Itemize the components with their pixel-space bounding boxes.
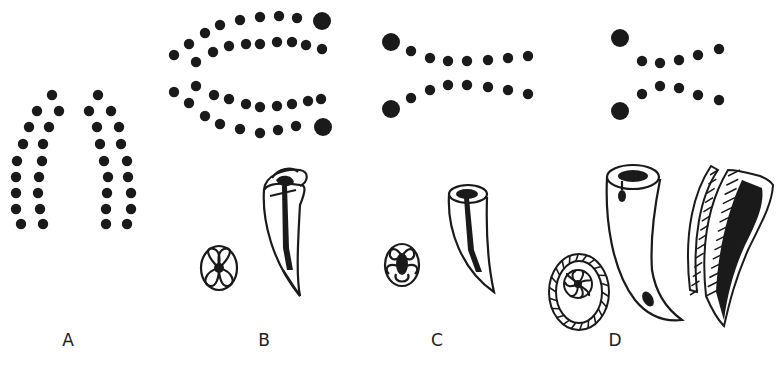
- dot-c: [483, 82, 493, 92]
- dot-c: [483, 55, 493, 65]
- dot-b: [255, 12, 265, 22]
- dot-c: [523, 89, 533, 99]
- dot-b: [215, 119, 225, 129]
- panel-d-longitudinal-section: [688, 166, 773, 326]
- dot-b: [272, 37, 282, 47]
- dot-a: [54, 106, 64, 116]
- dot-d: [674, 55, 684, 65]
- dot-b: [303, 96, 313, 106]
- dot-a: [11, 204, 21, 214]
- dot-b: [292, 13, 302, 23]
- dot-d: [637, 89, 647, 99]
- dot-a: [122, 156, 132, 166]
- large-dot-d: [611, 29, 629, 47]
- diagram-canvas: [0, 0, 783, 368]
- dot-a: [32, 106, 42, 116]
- dot-b: [208, 47, 218, 57]
- dot-d: [693, 50, 703, 60]
- dot-a: [102, 188, 112, 198]
- dot-a: [33, 188, 43, 198]
- dot-c: [503, 85, 513, 95]
- dot-c: [406, 93, 416, 103]
- dot-a: [34, 172, 44, 182]
- dot-b: [235, 15, 245, 25]
- dot-b: [184, 98, 194, 108]
- large-dot-b: [314, 118, 332, 136]
- panel-label-d: D: [605, 330, 625, 350]
- dot-a: [24, 122, 34, 132]
- dot-b: [255, 102, 265, 112]
- dot-b: [255, 39, 265, 49]
- large-dot-c: [382, 100, 400, 118]
- dot-a: [38, 219, 48, 229]
- dot-b: [287, 37, 297, 47]
- dot-a: [16, 219, 26, 229]
- dot-c: [462, 56, 472, 66]
- dot-b: [200, 28, 210, 38]
- dot-b: [317, 44, 327, 54]
- dot-c: [523, 51, 533, 61]
- dot-b: [184, 39, 194, 49]
- dot-b: [274, 11, 284, 21]
- dot-d: [655, 58, 665, 68]
- panel-label-b: B: [254, 330, 274, 350]
- dot-a: [11, 188, 21, 198]
- dot-a: [47, 90, 57, 100]
- dot-c: [462, 80, 472, 90]
- panel-b-longitudinal-section: [264, 169, 307, 296]
- dot-a: [35, 204, 45, 214]
- dot-b: [169, 87, 179, 97]
- dot-d: [714, 95, 724, 105]
- dot-a: [44, 122, 54, 132]
- dot-a: [126, 188, 136, 198]
- dot-a: [126, 204, 136, 214]
- dot-a: [106, 106, 116, 116]
- dot-b: [301, 40, 311, 50]
- dot-c: [425, 53, 435, 63]
- dot-b: [287, 99, 297, 109]
- panel-d-tooth-exterior: [607, 165, 682, 320]
- dot-c: [443, 80, 453, 90]
- dot-a: [12, 156, 22, 166]
- panel-c-longitudinal-section: [449, 185, 494, 292]
- dot-a: [92, 122, 102, 132]
- dot-b: [169, 50, 179, 60]
- dot-b: [215, 20, 225, 30]
- dot-a: [93, 90, 103, 100]
- panel-c-cross-section: [385, 244, 419, 286]
- dot-b: [224, 94, 234, 104]
- dot-a: [84, 106, 94, 116]
- dot-b: [316, 94, 326, 104]
- dot-b: [224, 41, 234, 51]
- dot-b: [235, 124, 245, 134]
- large-dot-c: [382, 33, 400, 51]
- dot-d: [655, 81, 665, 91]
- dot-b: [272, 101, 282, 111]
- dot-a: [37, 156, 47, 166]
- dot-d: [693, 90, 703, 100]
- dot-b: [209, 90, 219, 100]
- dot-a: [114, 122, 124, 132]
- dot-a: [122, 219, 132, 229]
- dot-a: [101, 219, 111, 229]
- dot-b: [255, 128, 265, 138]
- dot-c: [443, 56, 453, 66]
- panel-label-c: C: [427, 330, 447, 350]
- dot-c: [503, 53, 513, 63]
- dot-b: [273, 125, 283, 135]
- dot-d: [674, 83, 684, 93]
- dot-d: [637, 56, 647, 66]
- dot-a: [99, 156, 109, 166]
- dot-a: [38, 139, 48, 149]
- dot-d: [714, 44, 724, 54]
- dot-a: [103, 172, 113, 182]
- large-dot-d: [611, 102, 629, 120]
- dot-a: [101, 204, 111, 214]
- panel-label-a: A: [58, 330, 78, 350]
- dot-a: [116, 139, 126, 149]
- panel-b-cross-section: [201, 246, 237, 290]
- panel-d-cross-section: [549, 254, 609, 330]
- dot-a: [123, 172, 133, 182]
- large-dot-b: [313, 12, 331, 30]
- dot-b: [241, 99, 251, 109]
